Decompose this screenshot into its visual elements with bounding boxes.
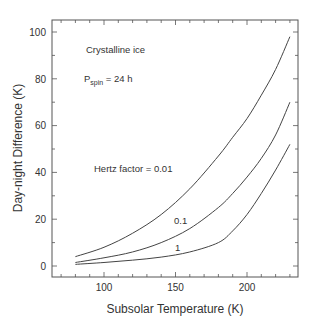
y-tick-60: 60 (35, 120, 47, 131)
y-tick-20: 20 (35, 214, 47, 225)
plot-frame (52, 20, 298, 277)
x-tick-100: 100 (96, 282, 113, 293)
axis-ticks (52, 20, 298, 277)
x-tick-200: 200 (239, 282, 256, 293)
y-tick-40: 40 (35, 167, 47, 178)
x-axis-label: Subsolar Temperature (K) (106, 302, 243, 316)
y-tick-80: 80 (35, 74, 47, 85)
spin-annotation: Pspin = 24 h (84, 73, 133, 87)
y-tick-100: 100 (29, 27, 46, 38)
chart: 100 80 60 40 20 0 100 150 200 Subsolar T… (0, 0, 317, 329)
data-curves (75, 37, 290, 265)
series-label-0.01: Hertz factor = 0.01 (94, 163, 172, 174)
y-tick-0: 0 (40, 261, 46, 272)
series-label-0.1: 0.1 (174, 215, 187, 226)
material-annotation: Crystalline ice (86, 44, 145, 55)
x-tick-150: 150 (167, 282, 184, 293)
series-label-1: 1 (175, 242, 180, 253)
y-axis-label: Day-night Difference (K) (11, 84, 25, 213)
curve-hertz-0.1 (75, 102, 290, 262)
